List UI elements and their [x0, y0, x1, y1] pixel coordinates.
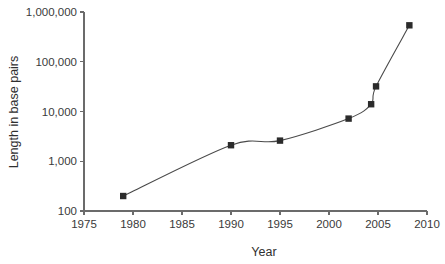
x-tick-label: 1985 — [169, 218, 195, 230]
y-tick-label: 100 — [58, 205, 77, 217]
x-tick-label: 1995 — [267, 218, 293, 230]
data-point-marker — [277, 137, 283, 143]
chart-canvas: 1001,00010,000100,0001,000,000 197519801… — [0, 0, 445, 264]
data-point-marker — [228, 142, 234, 148]
data-point-marker — [373, 83, 379, 89]
x-tick-label: 2000 — [316, 218, 342, 230]
y-tick-label: 100,000 — [35, 56, 77, 68]
y-tick-labels: 1001,00010,000100,0001,000,000 — [26, 6, 77, 217]
y-tick-label: 1,000 — [48, 155, 77, 167]
x-tick-label: 1980 — [120, 218, 146, 230]
data-line-series-1 — [123, 25, 409, 196]
x-tick-labels: 19751980198519901995200020052010 — [71, 218, 440, 230]
data-point-marker — [345, 115, 351, 121]
y-axis-title: Length in base pairs — [7, 56, 21, 169]
x-tick-label: 1975 — [71, 218, 97, 230]
y-tick-label: 10,000 — [42, 106, 77, 118]
x-tick-label: 2005 — [365, 218, 391, 230]
y-tick-label: 1,000,000 — [26, 6, 77, 18]
data-point-marker — [120, 193, 126, 199]
data-markers — [120, 22, 413, 199]
axes — [84, 12, 427, 211]
data-point-marker — [406, 22, 412, 28]
x-tick-label: 1990 — [218, 218, 244, 230]
chart-figure: 1001,00010,000100,0001,000,000 197519801… — [0, 0, 445, 264]
x-tick-label: 2010 — [414, 218, 440, 230]
data-point-marker — [368, 101, 374, 107]
x-axis-title: Year — [251, 245, 276, 259]
tick-marks — [80, 12, 427, 215]
